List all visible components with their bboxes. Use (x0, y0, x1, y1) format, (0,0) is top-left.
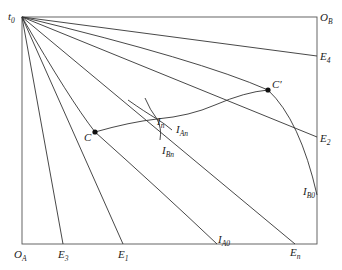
curve-IB0 (22, 17, 317, 195)
curve-IAn (128, 100, 172, 130)
label-t0: t0 (8, 10, 15, 25)
label-Cprime: C′ (272, 78, 282, 90)
box-frame (22, 17, 317, 244)
label-C: C (84, 131, 92, 143)
label-IBn: IBn (161, 144, 174, 159)
edgeworth-box-diagram: t0 OB OA E4 E2 E3 E1 En IB0 IA0 IAn IBn … (0, 0, 342, 270)
label-OA: OA (14, 248, 27, 263)
label-E2: E2 (319, 132, 331, 147)
point-Cprime (265, 87, 270, 92)
label-IB0: IB0 (302, 185, 315, 200)
label-OB: OB (320, 11, 333, 26)
label-IAn: IAn (175, 123, 188, 138)
label-IA0: IA0 (217, 233, 230, 248)
point-C (92, 129, 97, 134)
line-t0-E4 (22, 17, 317, 56)
line-t0-E1 (22, 17, 123, 244)
label-In: In (156, 115, 165, 130)
line-t0-En (22, 17, 295, 244)
label-E3: E3 (57, 248, 69, 263)
label-E4: E4 (319, 50, 331, 65)
label-E1: E1 (117, 248, 128, 263)
line-t0-E2 (22, 17, 317, 137)
label-En: En (289, 246, 301, 261)
contract-curve (95, 90, 268, 132)
